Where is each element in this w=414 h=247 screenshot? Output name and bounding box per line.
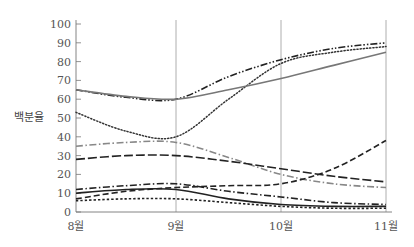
x-axis-ticks: 8월9월10월11월 <box>68 220 399 233</box>
axes <box>76 20 392 212</box>
y-tick-label: 20 <box>57 168 71 181</box>
series-2-line <box>76 47 386 139</box>
series-7-line <box>76 184 386 205</box>
y-tick-label: 0 <box>64 206 71 219</box>
x-tick-label: 9월 <box>168 220 185 233</box>
data-series <box>76 43 386 209</box>
y-tick-label: 10 <box>57 187 71 200</box>
y-axis-title: 백분율 <box>14 111 44 124</box>
y-tick-label: 80 <box>57 56 71 69</box>
y-tick-label: 50 <box>57 112 71 125</box>
y-tick-label: 60 <box>57 93 71 106</box>
y-tick-label: 30 <box>57 150 71 163</box>
y-tick-label: 40 <box>57 131 71 144</box>
line-chart: 0102030405060708090100 8월9월10월11월 백분율 <box>0 0 414 247</box>
x-tick-label: 8월 <box>68 220 85 233</box>
series-4-line <box>76 141 386 187</box>
y-tick-label: 70 <box>57 74 71 87</box>
series-5-line <box>76 155 386 182</box>
x-tick-label: 10월 <box>269 220 293 233</box>
x-tick-label: 11월 <box>374 220 398 233</box>
y-tick-label: 100 <box>50 18 71 31</box>
series-1-line <box>76 43 386 101</box>
y-tick-label: 90 <box>57 37 71 50</box>
